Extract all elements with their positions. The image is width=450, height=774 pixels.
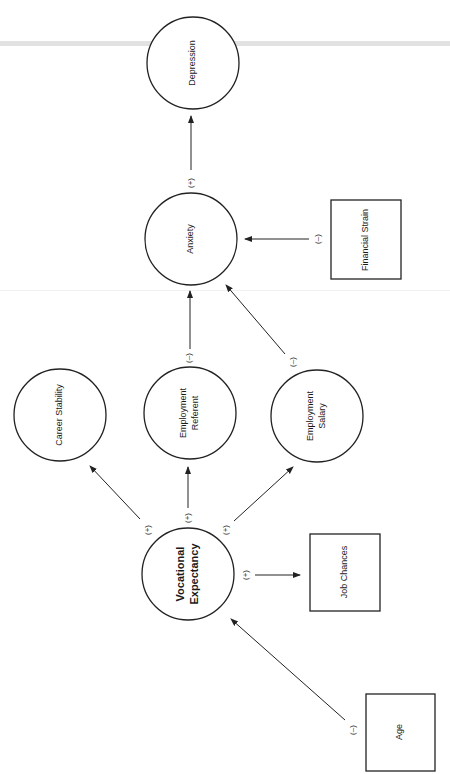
node-vocational-expectancy: Vocational Expectancy <box>142 528 234 620</box>
node-label: Anxiety <box>185 224 195 254</box>
node-financial-strain: Financial Strain <box>331 200 401 279</box>
node-job-chances: Job Chances <box>310 534 380 611</box>
node-label: Job Chances <box>339 545 349 598</box>
node-age: Age <box>366 694 435 771</box>
node-label-line-2: Referent <box>190 395 200 430</box>
node-label-line-1: Vocational <box>174 547 186 602</box>
node-depression: Depression <box>147 17 239 109</box>
node-label: Financial Strain <box>360 209 370 271</box>
node-label: Depression <box>187 40 197 86</box>
node-label-line-1: Employment <box>178 387 188 438</box>
node-employment-salary: Employment Salary <box>271 370 363 462</box>
edge-voc-career <box>90 466 140 519</box>
node-employment-referent: Employment Referent <box>144 367 236 459</box>
path-diagram: (+) (–) (–) (–) (+) (+) (+) (+) (–) Depr… <box>0 0 450 774</box>
sign-financial-anxiety: (–) <box>313 234 322 244</box>
node-label: Career Stability <box>54 384 64 446</box>
sign-age-voc: (–) <box>348 725 357 735</box>
node-anxiety: Anxiety <box>145 193 237 285</box>
sign-referent-anxiety: (–) <box>184 353 193 363</box>
node-label-line-2: Salary <box>317 403 327 429</box>
sign-voc-salary: (+) <box>221 525 230 535</box>
sign-voc-career: (+) <box>143 525 152 535</box>
edge-salary-anxiety <box>226 285 285 354</box>
edge-voc-salary <box>234 467 293 521</box>
node-career-stability: Career Stability <box>14 369 106 461</box>
node-label: Age <box>394 724 404 740</box>
node-label-line-1: Employment <box>305 390 315 441</box>
sign-voc-referent: (+) <box>183 513 192 523</box>
node-label-line-2: Expectancy <box>188 543 200 605</box>
sign-voc-job: (+) <box>241 570 250 580</box>
edge-age-voc <box>231 619 345 720</box>
sign-salary-anxiety: (–) <box>288 357 297 367</box>
sign-anxiety-depression: (+) <box>186 178 195 188</box>
